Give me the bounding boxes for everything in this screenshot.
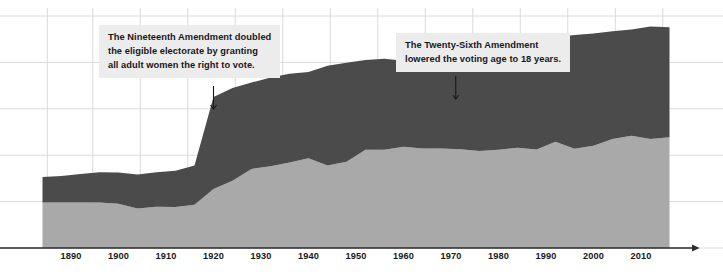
x-tick-1970: 1970 [440, 251, 461, 261]
x-tick-1890: 1890 [60, 251, 81, 261]
x-tick-1950: 1950 [345, 251, 366, 261]
annotation-nineteenth-amendment: The Nineteenth Amendment doubled the eli… [99, 25, 280, 78]
x-tick-1910: 1910 [155, 251, 176, 261]
x-tick-2010: 2010 [630, 251, 651, 261]
x-tick-1920: 1920 [203, 251, 224, 261]
x-tick-1930: 1930 [250, 251, 271, 261]
x-tick-1990: 1990 [535, 251, 556, 261]
x-tick-1940: 1940 [298, 251, 319, 261]
x-tick-2000: 2000 [583, 251, 604, 261]
chart-canvas: The Nineteenth Amendment doubled the eli… [0, 0, 723, 280]
x-tick-1980: 1980 [488, 251, 509, 261]
x-tick-1960: 1960 [393, 251, 414, 261]
x-tick-1900: 1900 [108, 251, 129, 261]
annotation-twenty-sixth-amendment: The Twenty-Sixth Amendment lowered the v… [396, 33, 570, 72]
